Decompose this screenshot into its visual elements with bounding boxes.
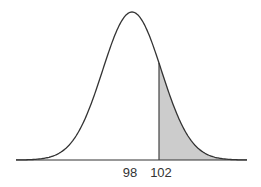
tick-label-mean: 98 [123, 165, 137, 180]
tick-label-cutoff: 102 [150, 165, 172, 180]
normal-distribution-chart: 98 102 [0, 0, 261, 187]
shaded-tail-area [159, 63, 247, 160]
normal-curve [16, 12, 247, 160]
